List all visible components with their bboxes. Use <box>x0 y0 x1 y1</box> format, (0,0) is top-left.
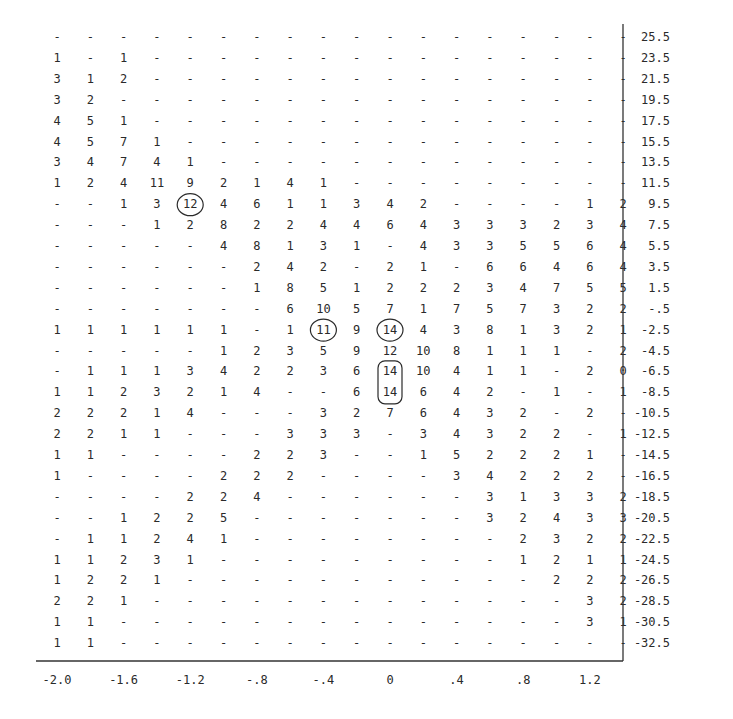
count-cell: 2 <box>586 469 593 483</box>
empty-cell: - <box>386 532 393 546</box>
count-cell: 4 <box>53 135 60 149</box>
empty-cell: - <box>420 511 427 525</box>
empty-cell: - <box>420 30 427 44</box>
empty-cell: - <box>220 406 227 420</box>
count-cell: 7 <box>386 406 393 420</box>
empty-cell: - <box>353 30 360 44</box>
count-cell: 10 <box>316 302 330 316</box>
count-cell: 6 <box>586 260 593 274</box>
count-cell: 1 <box>586 197 593 211</box>
y-tick-label: -22.5 <box>634 532 670 546</box>
empty-cell: - <box>586 51 593 65</box>
frequency-table-chart: ------------------1-1---------------312-… <box>0 0 733 719</box>
empty-cell: - <box>386 448 393 462</box>
empty-cell: - <box>253 636 260 650</box>
empty-cell: - <box>386 490 393 504</box>
count-cell: 5 <box>87 135 94 149</box>
empty-cell: - <box>253 72 260 86</box>
empty-cell: - <box>53 344 60 358</box>
y-tick-label: -12.5 <box>634 427 670 441</box>
empty-cell: - <box>286 30 293 44</box>
empty-cell: - <box>553 30 560 44</box>
count-cell: 3 <box>453 469 460 483</box>
count-cell: 5 <box>220 511 227 525</box>
count-cell: 2 <box>120 72 127 86</box>
empty-cell: - <box>53 511 60 525</box>
count-cell: 1 <box>53 553 60 567</box>
count-cell: 14 <box>383 385 397 399</box>
empty-cell: - <box>420 155 427 169</box>
count-cell: 2 <box>286 448 293 462</box>
empty-cell: - <box>220 51 227 65</box>
count-cell: 2 <box>187 385 194 399</box>
count-cell: 3 <box>553 532 560 546</box>
count-cell: 7 <box>120 155 127 169</box>
count-cell: 1 <box>120 532 127 546</box>
empty-cell: - <box>87 260 94 274</box>
count-cell: 3 <box>486 281 493 295</box>
count-cell: 4 <box>253 490 260 504</box>
empty-cell: - <box>586 114 593 128</box>
empty-cell: - <box>420 51 427 65</box>
empty-cell: - <box>486 93 493 107</box>
count-cell: 1 <box>586 448 593 462</box>
count-cell: 7 <box>453 302 460 316</box>
empty-cell: - <box>153 281 160 295</box>
count-cell: 4 <box>320 218 327 232</box>
x-tick-label: -1.6 <box>109 673 138 687</box>
count-cell: 2 <box>87 573 94 587</box>
count-cell: 12 <box>183 197 197 211</box>
empty-cell: - <box>253 511 260 525</box>
count-cell: 3 <box>353 197 360 211</box>
count-cell: 2 <box>586 573 593 587</box>
count-cell: 1 <box>87 448 94 462</box>
empty-cell: - <box>420 72 427 86</box>
empty-cell: - <box>120 344 127 358</box>
empty-cell: - <box>453 72 460 86</box>
count-cell: 1 <box>520 553 527 567</box>
empty-cell: - <box>320 51 327 65</box>
count-cell: 1 <box>320 197 327 211</box>
count-cell: 4 <box>553 260 560 274</box>
empty-cell: - <box>453 615 460 629</box>
empty-cell: - <box>486 573 493 587</box>
empty-cell: - <box>586 176 593 190</box>
empty-cell: - <box>286 532 293 546</box>
count-cell: 2 <box>220 469 227 483</box>
empty-cell: - <box>253 406 260 420</box>
count-cell: 2 <box>520 469 527 483</box>
count-cell: 4 <box>220 239 227 253</box>
empty-cell: - <box>453 490 460 504</box>
count-cell: 3 <box>553 302 560 316</box>
empty-cell: - <box>87 281 94 295</box>
empty-cell: - <box>187 93 194 107</box>
count-cell: 3 <box>320 239 327 253</box>
count-cell: 2 <box>120 553 127 567</box>
count-cell: 1 <box>153 135 160 149</box>
empty-cell: - <box>586 636 593 650</box>
count-cell: 2 <box>586 323 593 337</box>
empty-cell: - <box>420 615 427 629</box>
count-cell: 1 <box>153 218 160 232</box>
y-tick-label: -18.5 <box>634 490 670 504</box>
empty-cell: - <box>320 135 327 149</box>
empty-cell: - <box>220 448 227 462</box>
empty-cell: - <box>253 135 260 149</box>
empty-cell: - <box>120 239 127 253</box>
count-cell: 1 <box>153 573 160 587</box>
empty-cell: - <box>353 260 360 274</box>
count-cell: 2 <box>520 532 527 546</box>
empty-cell: - <box>386 573 393 587</box>
count-cell: 4 <box>553 511 560 525</box>
count-cell: 2 <box>453 281 460 295</box>
empty-cell: - <box>453 594 460 608</box>
count-cell: 6 <box>253 197 260 211</box>
y-tick-label: 11.5 <box>641 176 670 190</box>
empty-cell: - <box>453 573 460 587</box>
count-cell: 9 <box>353 323 360 337</box>
empty-cell: - <box>87 302 94 316</box>
empty-cell: - <box>286 636 293 650</box>
empty-cell: - <box>253 51 260 65</box>
empty-cell: - <box>87 197 94 211</box>
empty-cell: - <box>153 344 160 358</box>
